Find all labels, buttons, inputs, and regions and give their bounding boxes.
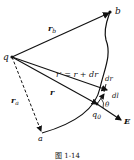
label-ra: ra — [11, 95, 19, 106]
vector-rb — [12, 13, 109, 57]
point-b — [108, 10, 111, 13]
label-q: q — [3, 52, 9, 62]
vector-r — [12, 57, 97, 104]
label-dl: dl — [112, 92, 119, 100]
point-q0 — [96, 103, 99, 106]
field-work-diagram: q b a rb ra r r′ = r + dr dr dl θ q0 E 图… — [0, 0, 134, 160]
vector-ra — [12, 57, 41, 131]
figure-caption: 图 1-14 — [55, 152, 80, 160]
vector-dr — [104, 84, 106, 92]
point-q — [10, 55, 13, 58]
label-theta: θ — [105, 101, 110, 109]
label-r-prime: r′ = r + dr — [56, 70, 99, 79]
label-a: a — [38, 134, 43, 143]
label-E: E — [123, 116, 131, 126]
label-q0: q0 — [92, 110, 101, 120]
label-dr: dr — [105, 75, 113, 83]
label-b: b — [115, 6, 121, 16]
label-r: r — [50, 87, 55, 97]
label-rb: rb — [48, 23, 56, 34]
